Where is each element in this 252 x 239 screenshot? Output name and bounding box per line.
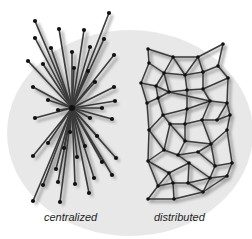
node — [167, 171, 171, 175]
node — [69, 105, 75, 111]
node — [200, 118, 204, 122]
node — [88, 45, 92, 49]
node — [82, 28, 86, 32]
node — [171, 181, 175, 185]
node — [31, 154, 35, 158]
node — [145, 101, 149, 105]
node — [187, 161, 191, 165]
node — [54, 167, 58, 171]
node — [73, 182, 77, 186]
node — [147, 61, 151, 65]
node — [201, 70, 205, 74]
centralized-label: centralized — [44, 211, 97, 223]
node — [162, 148, 166, 152]
node — [146, 159, 150, 163]
node — [146, 197, 150, 201]
node — [88, 116, 92, 120]
node — [58, 200, 62, 204]
node — [26, 59, 30, 63]
node — [171, 55, 175, 59]
node — [113, 99, 117, 103]
node — [201, 87, 205, 91]
edge — [188, 163, 189, 183]
node — [186, 181, 190, 185]
node — [62, 146, 66, 150]
node — [57, 27, 61, 31]
node — [102, 37, 106, 41]
node — [208, 99, 212, 103]
node — [216, 64, 220, 68]
node — [110, 117, 114, 121]
node — [110, 173, 114, 177]
node — [31, 85, 35, 89]
node — [95, 134, 99, 138]
node — [68, 130, 72, 134]
node — [86, 69, 90, 73]
edge — [230, 81, 231, 106]
node — [49, 46, 53, 50]
node — [208, 176, 212, 180]
node — [46, 98, 50, 102]
edge — [148, 49, 149, 63]
node — [41, 62, 45, 66]
edge — [187, 89, 203, 90]
node — [185, 107, 189, 111]
node — [31, 199, 35, 203]
node — [156, 184, 160, 188]
node — [87, 191, 91, 195]
distributed-label: distributed — [154, 211, 205, 223]
node — [72, 66, 76, 70]
node — [215, 118, 219, 122]
node — [161, 113, 165, 117]
node — [196, 150, 200, 154]
node — [185, 88, 189, 92]
node — [56, 108, 60, 112]
node — [183, 139, 187, 143]
node — [196, 55, 200, 59]
node — [225, 174, 229, 178]
edge — [173, 183, 174, 199]
node — [228, 113, 232, 117]
node — [114, 156, 118, 160]
node — [100, 106, 104, 110]
node — [230, 161, 234, 165]
node — [167, 90, 171, 94]
node — [162, 71, 166, 75]
node — [183, 122, 187, 126]
node — [33, 116, 37, 120]
node — [221, 42, 225, 46]
node — [56, 180, 60, 184]
diagram-figure: centralized distributed — [0, 0, 252, 239]
node — [146, 47, 150, 51]
node — [46, 141, 50, 145]
node — [154, 84, 158, 88]
node — [168, 122, 172, 126]
node — [100, 160, 104, 164]
node — [156, 96, 160, 100]
node — [112, 85, 116, 89]
node — [225, 101, 229, 105]
node — [112, 53, 116, 57]
node — [70, 50, 74, 54]
node — [139, 81, 143, 85]
node — [201, 190, 205, 194]
node — [107, 11, 111, 15]
node — [183, 73, 187, 77]
node — [41, 183, 45, 187]
network-topology-diagram — [0, 0, 252, 239]
node — [33, 36, 37, 40]
background-ellipse — [7, 30, 252, 236]
node — [225, 128, 229, 132]
node — [83, 144, 87, 148]
edge — [190, 92, 206, 93]
edge — [148, 130, 149, 161]
node — [226, 76, 230, 80]
node — [92, 176, 96, 180]
node — [75, 155, 79, 159]
node — [176, 153, 180, 157]
node — [33, 19, 37, 23]
node — [147, 128, 151, 132]
node — [213, 164, 217, 168]
node — [93, 80, 97, 84]
node — [172, 197, 176, 201]
